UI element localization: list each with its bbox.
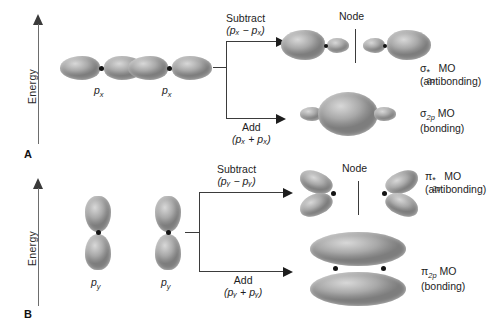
pi-mo-suffix: MO [440,265,457,277]
node-divider-b [358,181,359,215]
add-expression-b: (pᵧ + pᵧ) [224,286,262,298]
subtract-expression-b: (pᵧ − pᵧ) [217,175,256,187]
pi-bonding-nucleus-left [333,266,338,271]
sigma-bonding-mo-label: σ2p MO (bonding) [420,107,464,135]
node-divider-a [355,29,356,63]
bracket-vertical-b [199,192,200,272]
py2-nucleus [166,230,171,235]
bracket-stub-a [213,67,226,68]
add-expression-a: (pₓ + pₓ) [232,133,271,145]
px1-left-lobe [60,56,100,80]
add-word-b: Add [224,274,262,286]
panel-letter-b: B [24,308,32,320]
energy-axis-line-a [38,24,39,144]
pi-star-mo-label: π*2pMO (antibonding) [425,170,486,196]
sigma-star-small-lobe-left [327,38,349,53]
sigma-star-small-lobe-right [363,38,385,53]
py1-label: py [91,276,101,291]
pi-bonding-kind: (bonding) [421,280,465,293]
sigma-star-mo-label: σ*2pMO (antibonding) [420,62,481,88]
sigma-star-nucleus-right [383,44,387,48]
sigma-star-big-lobe-left [281,30,325,60]
pi-bonding-lower-lobe [310,272,406,306]
py2-bottom-lobe [155,234,181,270]
add-arrowhead-a [276,114,286,124]
px1-label: px [94,84,104,99]
subtract-arrowhead-b [283,188,293,198]
energy-axis-label-b: Energy [26,231,38,266]
sigma-mo-suffix: MO [438,107,455,119]
pi-bonding-mo-label: π2p MO (bonding) [421,265,465,293]
subtract-word-a: Subtract [226,12,265,24]
add-arrowhead-b [283,267,293,277]
px2-right-lobe [172,56,212,80]
subtract-expression-a: (pₓ − pₓ) [226,24,265,36]
sigma-bonding-center-lobe [318,92,378,136]
add-operation-label-a: Add (pₓ + pₓ) [232,121,271,145]
pi-star-nucleus-right [382,191,387,196]
bracket-vertical-a [226,41,227,119]
bracket-stub-b [185,232,199,233]
sigma-star-nucleus-left [324,44,328,48]
add-operation-label-b: Add (pᵧ + pᵧ) [224,274,262,298]
node-label-b: Node [342,162,367,174]
px2-left-lobe [128,56,168,80]
sigma-bonding-kind: (bonding) [420,122,464,135]
energy-axis-label-a: Energy [26,69,38,104]
subtract-operation-label-b: Subtract (pᵧ − pᵧ) [217,163,256,187]
subtract-arrow-line-b [199,192,285,193]
py1-nucleus [96,230,101,235]
add-word-a: Add [232,121,271,133]
panel-b-pi-from-py: Energy B py py Subtract (pᵧ − pᵧ) Add (p… [0,160,494,325]
subtract-operation-label-a: Subtract (pₓ − pₓ) [226,12,265,36]
subtract-word-b: Subtract [217,163,256,175]
py2-top-lobe [155,196,181,232]
pi-star-nucleus-left [331,191,336,196]
pi-star-symbol: π [425,170,432,182]
node-label-a: Node [339,10,364,22]
sigma-bonding-small-lobe-right [374,107,396,121]
pi-star-mo-suffix: MO [444,170,461,182]
panel-letter-a: A [24,148,32,160]
pi-bonding-nucleus-right [381,266,386,271]
py1-top-lobe [85,196,111,232]
px1-nucleus [99,66,104,71]
add-arrow-line-a [226,118,278,119]
px2-nucleus [167,66,172,71]
py1-bottom-lobe [85,234,111,270]
sigma-subscript: 2p [426,113,434,122]
subtract-arrow-line-a [226,41,278,42]
pi-bonding-upper-lobe [310,232,406,266]
px2-label: px [162,84,172,99]
energy-axis-line-b [38,188,39,306]
pi-star-lower-lobe-left [296,188,335,220]
sigma-star-big-lobe-right [387,30,431,60]
add-arrow-line-b [199,271,285,272]
sigma-star-mo-suffix: MO [438,62,455,74]
panel-a-sigma-from-px: Energy A px px Subtract (pₓ − pₓ) Add (p… [0,0,494,165]
pi-subscript: 2p [428,271,436,280]
py2-label: py [161,276,171,291]
pi-star-lower-lobe-right [382,188,421,220]
